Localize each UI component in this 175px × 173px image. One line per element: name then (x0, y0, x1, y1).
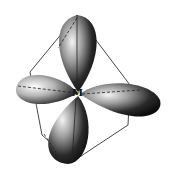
lobe-top (58, 15, 97, 92)
tetrahedral-orbital-figure (0, 0, 175, 173)
lobe-right (80, 83, 160, 116)
center-atom-label: M (72, 88, 83, 98)
lobe-bottom (44, 96, 89, 164)
lobe-left (16, 75, 78, 104)
